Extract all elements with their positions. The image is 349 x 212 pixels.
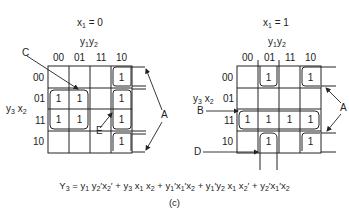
left-cell-01-10: 1 (111, 88, 132, 109)
left-map-title: x1 = 0 (77, 18, 103, 31)
left-cell-01-00: 1 (48, 88, 69, 109)
annotation-b: B (197, 106, 204, 116)
left-cell-11-00: 1 (48, 109, 69, 130)
annotation-d: D (194, 147, 201, 157)
right-row-header-00: 00 (222, 73, 233, 83)
right-cell-00-10: 1 (300, 67, 321, 88)
right-cell-11-00: 1 (237, 109, 258, 130)
figure-caption: (c) (0, 197, 349, 208)
right-col-header-10: 10 (305, 53, 316, 63)
left-cell-11-01: 1 (69, 109, 90, 130)
right-cell-11-01: 1 (258, 109, 279, 130)
left-col-var-label: y1y2 (80, 37, 98, 50)
right-cell-00-01: 1 (258, 67, 279, 88)
right-cell-11-10: 1 (300, 109, 321, 130)
left-cell-00-10: 1 (111, 67, 132, 88)
left-col-header-01: 01 (74, 53, 85, 63)
left-row-header-00: 00 (33, 73, 44, 83)
left-col-header-11: 11 (96, 53, 106, 63)
right-cell-11-11: 1 (279, 109, 300, 130)
boolean-equation: Y3 = y1 y2′x2′ + y3 x1 x2 + y1′x1′x2 + y… (0, 180, 349, 192)
right-col-header-00: 00 (242, 53, 253, 63)
right-map-title: x1 = 1 (263, 18, 289, 31)
left-cell-10-10: 1 (111, 131, 132, 152)
annotation-e: E (96, 126, 103, 136)
annotation-a-left: A (161, 110, 168, 120)
left-cell-11-10: 1 (111, 109, 132, 130)
right-cell-10-01: 1 (258, 131, 279, 152)
annotation-c: C (22, 48, 29, 58)
right-col-header-11: 11 (285, 53, 295, 63)
left-row-header-11: 11 (35, 116, 45, 126)
left-row-var-label: y3 x2 (6, 104, 27, 117)
annotation-a-right: A (340, 103, 347, 113)
right-col-header-01: 01 (264, 53, 275, 63)
right-row-header-01: 01 (223, 94, 234, 104)
left-cell-01-01: 1 (69, 88, 90, 109)
left-col-header-10: 10 (116, 53, 127, 63)
right-col-var-label: y1y2 (268, 37, 286, 50)
right-row-header-10: 10 (222, 137, 233, 147)
right-row-header-11: 11 (224, 116, 234, 126)
right-cell-10-10: 1 (300, 131, 321, 152)
left-col-header-00: 00 (53, 53, 64, 63)
left-row-header-01: 01 (34, 94, 45, 104)
left-row-header-10: 10 (33, 137, 44, 147)
